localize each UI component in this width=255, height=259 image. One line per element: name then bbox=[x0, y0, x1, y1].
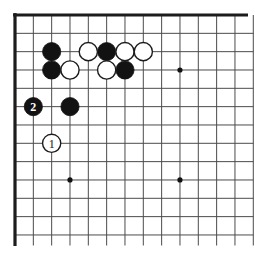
white-stone bbox=[61, 61, 79, 79]
black-stone bbox=[116, 61, 134, 79]
black-stone bbox=[43, 61, 61, 79]
star-point bbox=[177, 67, 182, 72]
black-stone bbox=[98, 43, 116, 61]
black-stone bbox=[61, 98, 79, 116]
go-diagram-page: 21 bbox=[0, 0, 255, 259]
white-stone bbox=[98, 61, 116, 79]
move-number-label: 2 bbox=[30, 100, 36, 114]
star-point bbox=[177, 177, 182, 182]
white-stone bbox=[79, 43, 97, 61]
move-number-label: 1 bbox=[49, 137, 55, 151]
go-board: 21 bbox=[0, 0, 255, 259]
white-stone bbox=[116, 43, 134, 61]
star-point bbox=[67, 177, 72, 182]
black-stone bbox=[43, 43, 61, 61]
white-stone bbox=[134, 43, 152, 61]
